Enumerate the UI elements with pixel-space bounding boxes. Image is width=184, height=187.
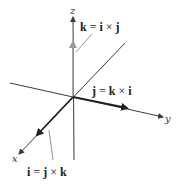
vector-j bbox=[73, 97, 127, 108]
i-equation-label: i = j × k bbox=[27, 165, 67, 179]
leader-k bbox=[76, 34, 92, 52]
axes bbox=[10, 17, 163, 160]
x-axis-label: x bbox=[12, 153, 18, 164]
cross-product-diagram: z y x k = i × j j = k × i i = j × k bbox=[0, 0, 184, 187]
y-axis-label: y bbox=[164, 113, 171, 124]
vector-i bbox=[37, 97, 73, 135]
z-axis-label: z bbox=[69, 5, 76, 16]
leader-i bbox=[49, 130, 53, 160]
j-equation-label: j = k × i bbox=[91, 84, 132, 98]
k-equation-label: k = i × j bbox=[80, 20, 120, 34]
